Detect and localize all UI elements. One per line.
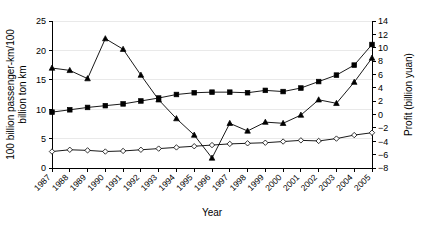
marker-diamond [49,149,54,154]
x-axis-tick-label: 2002 [299,172,320,193]
x-axis-tick-label: 1996 [192,172,213,193]
marker-diamond [67,147,72,152]
x-axis-tick-label: 2004 [334,172,355,193]
marker-square [299,86,304,91]
marker-diamond [192,144,197,149]
y-axis-right-tick-label: 0 [378,110,383,120]
marker-square [156,96,161,101]
y-axis-right-tick-label: 4 [378,83,383,93]
y-axis-right-title: Profit (billion yuan) [403,53,414,136]
marker-triangle [120,46,126,51]
x-axis-tick-label: 2005 [352,172,373,193]
y-axis-left-tick-label: 15 [36,75,46,85]
x-axis-tick-label: 1997 [210,172,231,193]
marker-triangle [263,119,269,124]
y-axis-right-tick-label: −2 [378,123,388,133]
marker-square [192,90,197,95]
y-axis-left-tick-label: 20 [36,46,46,56]
x-axis-tick-label: 1988 [50,172,71,193]
y-axis-left-tick-label: 5 [41,134,46,144]
marker-square [263,88,268,93]
y-axis-left-tick-label: 25 [36,16,46,26]
marker-triangle [369,55,375,60]
marker-diamond [352,132,357,137]
marker-triangle [227,120,233,125]
x-axis-tick-label: 1993 [139,172,160,193]
y-axis-right-tick-label: 10 [378,43,388,53]
chart-container: 0510152025−8−6−4−20246810121419871988198… [0,0,430,225]
marker-diamond [369,130,374,135]
x-axis-tick-label: 2003 [316,172,337,193]
marker-square [370,42,375,47]
marker-triangle [85,76,91,81]
y-axis-right-tick-label: −4 [378,137,388,147]
marker-square [245,90,250,95]
marker-square [316,79,321,84]
y-axis-right-tick-label: 8 [378,56,383,66]
marker-diamond [334,136,339,141]
marker-square [103,103,108,108]
x-axis-tick-label: 2000 [263,172,284,193]
x-axis-tick-label: 1989 [68,172,89,193]
line-chart: 0510152025−8−6−4−20246810121419871988198… [0,0,430,225]
marker-square [121,102,126,107]
x-axis-title: Year [202,207,223,218]
marker-square [352,63,357,68]
y-axis-left-tick-label: 10 [36,105,46,115]
y-axis-right-tick-label: 12 [378,30,388,40]
marker-diamond [85,148,90,153]
marker-square [67,107,72,112]
y-axis-right-tick-label: 14 [378,16,388,26]
x-axis-tick-label: 1992 [121,172,142,193]
marker-diamond [138,147,143,152]
x-axis-tick-label: 1999 [245,172,266,193]
y-axis-left-tick-label: 0 [41,163,46,173]
marker-diamond [174,145,179,150]
marker-diamond [156,146,161,151]
marker-diamond [263,140,268,145]
marker-square [174,92,179,97]
marker-triangle [103,36,109,41]
marker-diamond [209,142,214,147]
y-axis-right-tick-label: 2 [378,96,383,106]
marker-diamond [120,148,125,153]
marker-square [281,89,286,94]
marker-triangle [49,65,55,70]
marker-triangle [316,97,322,102]
marker-diamond [103,149,108,154]
x-axis-tick-label: 1994 [156,172,177,193]
marker-square [227,90,232,95]
x-axis-tick-label: 1998 [228,172,249,193]
marker-diamond [280,139,285,144]
y-axis-left-title-2: billion ton km [17,65,28,123]
marker-diamond [245,141,250,146]
x-axis-tick-label: 1991 [103,172,124,193]
y-axis-left-title: 100 billion passenger-km/100 [5,29,16,160]
x-axis-tick-label: 1990 [85,172,106,193]
marker-square [85,105,90,110]
marker-square [334,73,339,78]
x-axis-tick-label: 2001 [281,172,302,193]
y-axis-right-tick-label: 6 [378,70,383,80]
marker-square [50,110,55,115]
marker-square [139,99,144,104]
y-axis-right-tick-label: −6 [378,150,388,160]
y-axis-right-tick-label: −8 [378,163,388,173]
marker-diamond [227,141,232,146]
marker-square [210,90,215,95]
x-axis-tick-label: 1995 [174,172,195,193]
series-line-passenger-km [52,45,372,113]
x-axis-tick-label: 1987 [32,172,53,193]
